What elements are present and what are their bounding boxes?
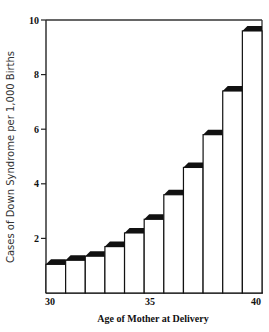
x-tick-label: 30 — [45, 296, 55, 307]
bar-cap — [144, 214, 164, 219]
bar — [242, 26, 262, 293]
bar — [144, 214, 164, 293]
bar — [164, 190, 184, 293]
bar-cap — [125, 228, 145, 233]
bar — [85, 251, 105, 293]
x-tick-label: 35 — [145, 296, 155, 307]
down-syndrome-bar-chart: 246810 303540 Age of Mother at Delivery … — [0, 0, 269, 332]
y-tick-label: 4 — [34, 178, 39, 189]
y-axis-ticks: 246810 — [29, 15, 46, 244]
bar-cap — [183, 162, 203, 167]
bar — [223, 86, 243, 293]
bar-cap — [223, 86, 243, 91]
y-tick-label: 10 — [29, 15, 39, 26]
bar — [203, 130, 223, 293]
x-axis-ticks: 303540 — [45, 296, 261, 307]
y-tick-label: 6 — [34, 124, 39, 135]
x-tick-label: 40 — [251, 296, 261, 307]
y-axis-title: Cases of Down Syndrome per 1,000 Births — [5, 51, 16, 263]
bars — [46, 26, 262, 293]
bar-cap — [46, 259, 66, 264]
bar-cap — [164, 190, 184, 195]
bar — [66, 255, 86, 293]
bar-cap — [66, 255, 86, 260]
bar — [46, 259, 66, 293]
bar — [105, 242, 125, 293]
bar — [125, 228, 145, 293]
bar-cap — [203, 130, 223, 135]
x-axis-title: Age of Mother at Delivery — [97, 313, 208, 324]
bar-cap — [85, 251, 105, 256]
y-tick-label: 8 — [34, 69, 39, 80]
bar — [183, 162, 203, 293]
bar-cap — [242, 26, 262, 31]
bar-cap — [105, 242, 125, 247]
y-tick-label: 2 — [34, 233, 39, 244]
